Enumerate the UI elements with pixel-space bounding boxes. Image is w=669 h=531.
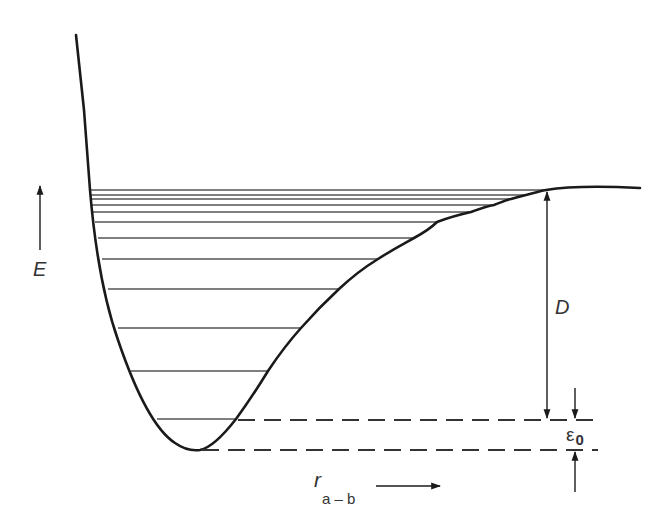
zero-point-energy-symbol: ε [566, 424, 574, 445]
dissociation-energy-label: D [555, 296, 569, 319]
zero-point-energy-subscript: 0 [575, 431, 583, 448]
energy-axis-label: E [33, 258, 46, 281]
zero-point-energy-label: ε0 [566, 424, 583, 446]
distance-axis-subscript: a – b [322, 490, 355, 507]
distance-axis-label: r [314, 468, 321, 492]
potential-energy-diagram [0, 0, 669, 531]
vibrational-levels [90, 190, 546, 419]
potential-curve [76, 35, 640, 450]
